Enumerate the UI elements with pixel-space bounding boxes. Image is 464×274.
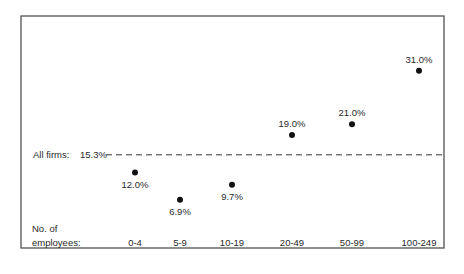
- data-label-20-49: 19.0%: [279, 118, 306, 129]
- x-axis-label-line-1: No. of: [32, 223, 58, 234]
- reference-line-value: 15.3%: [80, 149, 107, 160]
- x-tick-label-100-249: 100-249: [402, 237, 437, 248]
- data-label-100-249: 31.0%: [406, 54, 433, 65]
- chart: All firms: 15.3% No. of employees: 12.0%…: [0, 0, 464, 274]
- data-point-50-99: [349, 121, 355, 127]
- data-label-5-9: 6.9%: [169, 206, 191, 217]
- data-label-0-4: 12.0%: [122, 179, 149, 190]
- reference-line-label: All firms:: [33, 149, 69, 160]
- data-label-50-99: 21.0%: [339, 107, 366, 118]
- x-tick-label-5-9: 5-9: [173, 237, 187, 248]
- data-point-0-4: [132, 170, 138, 176]
- data-label-10-19: 9.7%: [221, 191, 243, 202]
- data-point-20-49: [289, 132, 295, 138]
- x-tick-label-10-19: 10-19: [220, 237, 244, 248]
- x-tick-label-50-99: 50-99: [340, 237, 364, 248]
- x-tick-label-20-49: 20-49: [280, 237, 304, 248]
- data-point-100-249: [416, 68, 422, 74]
- x-axis-label-line-2: employees:: [32, 237, 81, 248]
- x-tick-label-0-4: 0-4: [128, 237, 142, 248]
- data-point-10-19: [229, 182, 235, 188]
- data-point-5-9: [177, 197, 183, 203]
- chart-frame: [21, 16, 444, 248]
